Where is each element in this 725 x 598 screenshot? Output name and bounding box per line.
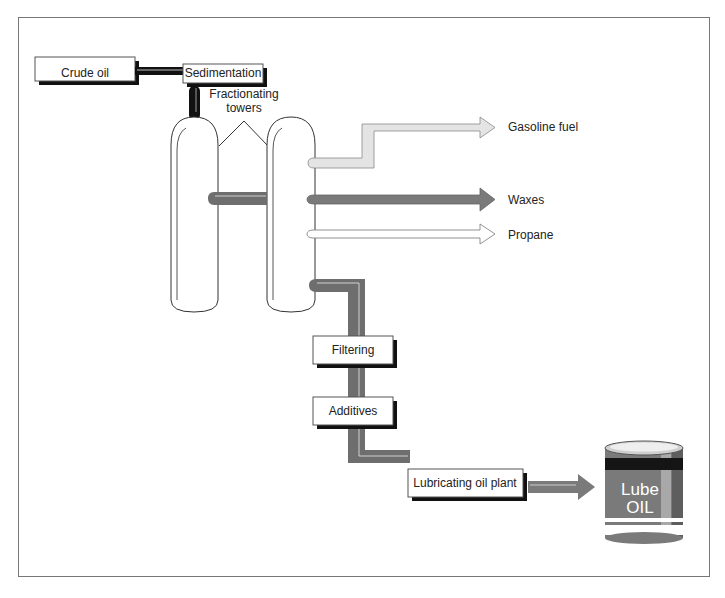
can-label-oil: OIL xyxy=(626,498,653,517)
lubricating-plant-box: Lubricating oil plant xyxy=(408,469,527,501)
to-product-arrow xyxy=(528,474,595,500)
propane-label: Propane xyxy=(508,228,554,242)
crude-oil-label: Crude oil xyxy=(61,66,109,80)
additives-box: Additives xyxy=(313,397,397,429)
gasoline-output-arrow xyxy=(308,117,495,168)
sedimentation-box: Sedimentation xyxy=(183,64,267,87)
callout-pointer xyxy=(219,121,268,146)
sedimentation-to-tower-pipe xyxy=(189,86,200,120)
crude-to-sedimentation-pipe xyxy=(135,67,187,75)
waxes-label: Waxes xyxy=(508,193,544,207)
lubricating-plant-label: Lubricating oil plant xyxy=(413,476,517,490)
lube-process-pipe xyxy=(309,279,410,463)
fractionating-label: Fractionating xyxy=(209,87,278,101)
tower-connector-pipe xyxy=(208,192,267,205)
filtering-box: Filtering xyxy=(313,336,397,368)
towers-label: towers xyxy=(226,101,261,115)
can-label-lube: Lube xyxy=(621,480,659,499)
crude-oil-box: Crude oil xyxy=(35,57,139,85)
fractionating-tower-left xyxy=(171,117,218,312)
sedimentation-label: Sedimentation xyxy=(185,66,262,80)
waxes-output-arrow xyxy=(307,188,495,211)
propane-output-arrow xyxy=(307,224,495,244)
lube-oil-can-icon: Lube OIL xyxy=(605,441,683,544)
filtering-label: Filtering xyxy=(332,343,375,357)
fractionating-tower-right xyxy=(267,117,315,312)
additives-label: Additives xyxy=(329,404,378,418)
refinery-diagram: Crude oil Sedimentation Fractionating to… xyxy=(0,0,725,598)
gasoline-fuel-label: Gasoline fuel xyxy=(508,120,578,134)
